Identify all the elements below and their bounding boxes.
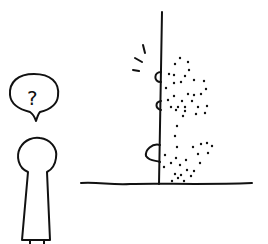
illustration-canvas: ? (0, 0, 268, 244)
speech-bubble: ? (10, 74, 58, 121)
person-figure (18, 138, 56, 244)
motion-lines-icon (133, 45, 145, 71)
vertical-wall (159, 12, 162, 184)
dotted-hidden-figure (163, 57, 213, 182)
question-mark-text: ? (27, 86, 38, 110)
foot-leaf (146, 145, 160, 162)
ground-line (81, 183, 252, 184)
